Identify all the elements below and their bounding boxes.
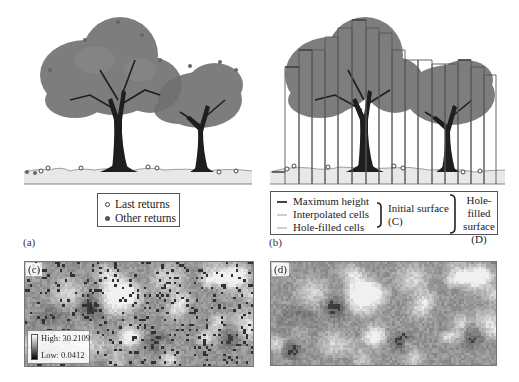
group-label-initial-surface: Initial surface (C) [388, 202, 449, 228]
panel-label-c: (c) [26, 263, 42, 276]
grayscale-gradient [31, 334, 38, 360]
panel-a: Last returns Other returns (a) [0, 0, 260, 245]
panel-label-a: (a) [23, 236, 35, 248]
legend-a: Last returns Other returns [97, 193, 180, 227]
scale-low-label: Low: 0.0412 [41, 350, 84, 360]
bracket-initial-icon [376, 202, 384, 228]
scale-high-label: High: 30.2109 [41, 333, 90, 343]
trees-surface-illustration-b [260, 0, 519, 190]
light-line-icon [277, 214, 287, 216]
legend-item-maximum-height: Maximum height [277, 195, 369, 208]
canopy-height-raster-hole-filled [271, 262, 496, 365]
height-scale-legend: High: 30.2109 Low: 0.0412 [27, 330, 90, 364]
legend-b: Maximum height Interpolated cells Hole-f… [270, 191, 498, 235]
panel-label-b: (b) [269, 236, 282, 248]
open-circle-icon [105, 202, 110, 207]
dark-line-icon [277, 201, 287, 203]
light-line-icon [277, 227, 287, 229]
legend-item-last-returns: Last returns [105, 197, 179, 211]
bracket-holefilled-icon [449, 194, 458, 234]
panel-c-raster: (c) High: 30.2109 Low: 0.0412 [24, 261, 254, 367]
panel-d-raster: (d) [270, 261, 497, 366]
trees-illustration-a [0, 0, 260, 190]
legend-item-interpolated-cells: Interpolated cells [277, 208, 369, 221]
panel-label-d: (d) [272, 263, 289, 276]
filled-circle-icon [105, 216, 110, 221]
group-label-hole-filled-surface: Hole-filled surface (D) [458, 194, 500, 246]
legend-item-hole-filled-cells: Hole-filled cells [277, 221, 369, 234]
legend-item-other-returns: Other returns [105, 211, 179, 225]
panel-b: Maximum height Interpolated cells Hole-f… [260, 0, 519, 245]
